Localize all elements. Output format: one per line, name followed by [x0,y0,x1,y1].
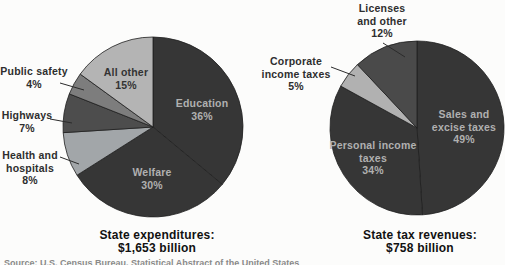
two-pie-figure: Education36%Welfare30%Health andhospital… [0,0,505,265]
pie-slice-sales-and-excise-taxes [417,41,504,215]
caption-state-tax-revenues: State tax revenues: $758 billion [363,229,477,255]
caption-revenues-line2: $758 billion [363,242,477,255]
pie-revenues-svg [253,0,505,265]
caption-state-expenditures: State expenditures: $1,653 billion [99,229,214,255]
source-note: Source: U.S. Census Bureau, Statistical … [4,258,404,265]
pie-chart-state-expenditures: Education36%Welfare30%Health andhospital… [0,0,253,265]
caption-expenditures-line2: $1,653 billion [99,242,214,255]
pie-chart-state-tax-revenues: Sales andexcise taxes49%Personal incomet… [253,0,505,265]
pie-expenditures-svg [0,0,253,265]
